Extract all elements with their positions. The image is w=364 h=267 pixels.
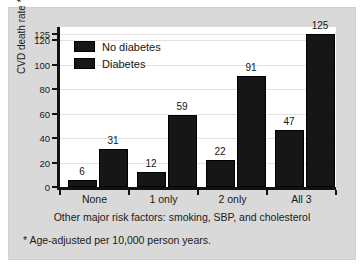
x-tick-mark xyxy=(335,190,337,195)
y-tick-label: 0 xyxy=(45,183,50,192)
gridline xyxy=(60,114,336,115)
x-tick-mark xyxy=(59,190,61,195)
y-tick-label: 125 xyxy=(34,30,50,39)
bar xyxy=(275,130,304,187)
bar xyxy=(206,160,235,187)
bar-value-label: 91 xyxy=(231,63,272,73)
y-tick-label: 80 xyxy=(39,85,50,94)
x-tick-mark xyxy=(128,190,130,195)
y-tick-label: 100 xyxy=(34,60,50,69)
x-tick-label: 2 only xyxy=(218,193,246,205)
x-axis-title: Other major risk factors: smoking, SBP, … xyxy=(9,211,355,223)
legend-label: No diabetes xyxy=(102,41,161,53)
bar xyxy=(137,172,166,187)
y-axis-title: CVD death rate * xyxy=(16,60,27,74)
bar xyxy=(237,76,266,187)
footnote: * Age-adjusted per 10,000 person years. xyxy=(23,234,211,246)
legend-swatch-icon xyxy=(74,58,95,69)
bar-value-label: 125 xyxy=(300,21,341,31)
x-tick-mark xyxy=(197,190,199,195)
x-tick-mark xyxy=(266,190,268,195)
y-tick-label: 40 xyxy=(39,134,50,143)
gridline xyxy=(60,89,336,90)
x-tick-label: None xyxy=(82,193,107,205)
bar xyxy=(68,180,97,187)
bar-value-label: 22 xyxy=(200,147,241,157)
plot-inner: 6311259229147125 No diabetes Diabetes xyxy=(60,27,336,187)
bar-value-label: 6 xyxy=(62,167,103,177)
legend-item-diabetes: Diabetes xyxy=(74,56,161,71)
x-tick-label: 1 only xyxy=(149,193,177,205)
y-tick-label: 60 xyxy=(39,109,50,118)
gridline xyxy=(60,34,336,35)
plot-area: 6311259229147125 No diabetes Diabetes xyxy=(57,27,336,190)
bar xyxy=(99,149,128,187)
bar-value-label: 59 xyxy=(162,102,203,112)
chart-figure: CVD death rate * 020406080100120125 6311… xyxy=(9,8,355,259)
x-tick-label: All 3 xyxy=(291,193,311,205)
bar xyxy=(168,115,197,187)
bar-value-label: 47 xyxy=(269,117,310,127)
chart-legend: No diabetes Diabetes xyxy=(74,39,161,73)
bar-value-label: 31 xyxy=(93,136,134,146)
y-tick-label: 20 xyxy=(39,158,50,167)
bar xyxy=(306,34,335,187)
legend-swatch-icon xyxy=(74,41,95,52)
bar-value-label: 12 xyxy=(131,159,172,169)
legend-label: Diabetes xyxy=(102,58,145,70)
legend-item-no-diabetes: No diabetes xyxy=(74,39,161,54)
